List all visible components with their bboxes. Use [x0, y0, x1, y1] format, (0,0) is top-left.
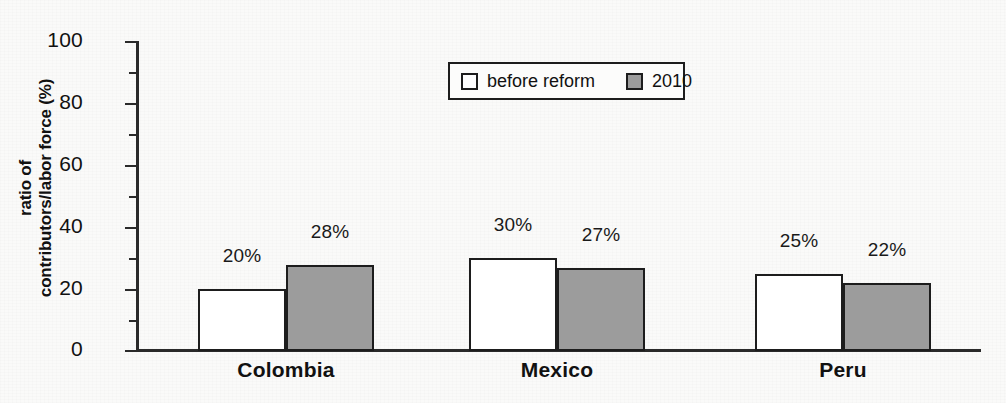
- bar-colombia-2010: [286, 265, 374, 351]
- y-tick-0: [125, 350, 137, 352]
- bar-value-label-peru-2010: 22%: [868, 239, 907, 261]
- y-minor-tick-30: [129, 258, 137, 260]
- bar-peru-2010: [843, 283, 931, 351]
- y-tick-80: [125, 103, 137, 105]
- x-category-label-colombia: Colombia: [237, 358, 334, 382]
- legend-label-before-reform: before reform: [487, 71, 595, 92]
- y-tick-40: [125, 227, 137, 229]
- y-minor-tick-50: [129, 196, 137, 198]
- y-minor-tick-90: [129, 72, 137, 74]
- chart-legend: before reform 2010: [448, 62, 685, 100]
- bar-value-label-colombia-before-reform: 20%: [223, 245, 262, 267]
- bar-chart-figure: ratio of contributors/labor force (%) 10…: [0, 0, 1006, 403]
- bar-value-label-peru-before-reform: 25%: [780, 230, 819, 252]
- x-category-label-peru: Peru: [819, 358, 867, 382]
- bar-mexico-2010: [557, 268, 645, 351]
- bar-value-label-colombia-2010: 28%: [311, 221, 350, 243]
- bar-value-label-mexico-before-reform: 30%: [494, 214, 533, 236]
- x-category-label-mexico: Mexico: [521, 358, 593, 382]
- bar-value-label-mexico-2010: 27%: [582, 224, 621, 246]
- y-tick-20: [125, 289, 137, 291]
- legend-swatch-2010: [626, 73, 643, 90]
- legend-label-2010: 2010: [652, 71, 692, 92]
- bar-mexico-before-reform: [469, 258, 557, 351]
- legend-swatch-before-reform: [461, 73, 478, 90]
- y-minor-tick-70: [129, 134, 137, 136]
- y-minor-tick-10: [129, 320, 137, 322]
- y-tick-60: [125, 165, 137, 167]
- y-axis-title: ratio of contributors/labor force (%): [16, 43, 56, 333]
- bar-peru-before-reform: [755, 274, 843, 351]
- y-tick-100: [125, 41, 137, 43]
- bar-colombia-before-reform: [198, 289, 286, 351]
